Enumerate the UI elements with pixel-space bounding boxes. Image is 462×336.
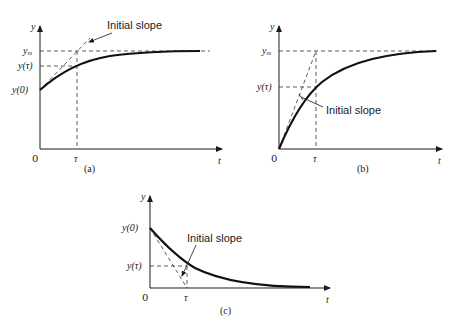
tau-label: τ: [74, 153, 78, 164]
caption-c: (c): [220, 305, 231, 317]
y-ss-label: yss: [22, 45, 33, 56]
panel-b: y t 0 yss y(τ) τ Initial slope (b): [256, 21, 442, 175]
x-axis-label: t: [438, 155, 441, 166]
response-curve: [40, 51, 200, 90]
tau-label: τ: [313, 153, 317, 164]
panel-a: y t 0 yss y(τ) y(0) τ Initial slope (a): [11, 19, 222, 175]
initial-slope-annotation: Initial slope: [107, 19, 162, 31]
tau-label: τ: [184, 292, 188, 303]
y-axis-label: y: [30, 21, 36, 32]
caption-b: (b): [357, 163, 369, 175]
panel-c: y t 0 y(0) y(τ) τ Initial slope (c): [121, 191, 330, 317]
y-tau-label: y(τ): [17, 60, 33, 72]
y-axis-label: y: [269, 21, 275, 32]
y-tau-label: y(τ): [126, 260, 142, 272]
y0-label: y(0): [121, 222, 139, 234]
initial-slope-annotation: Initial slope: [326, 104, 381, 116]
origin-label: 0: [271, 153, 277, 164]
first-order-response-figure: y t 0 yss y(τ) y(0) τ Initial slope (a) …: [0, 0, 462, 336]
origin-label: 0: [32, 153, 38, 164]
y0-label: y(0): [11, 84, 29, 96]
annotation-arrow: [89, 33, 112, 42]
origin-label: 0: [142, 292, 148, 303]
x-axis-label: t: [218, 155, 221, 166]
y-axis-label: y: [140, 191, 146, 202]
x-axis-label: t: [326, 294, 329, 305]
annotation-tick: [299, 94, 303, 100]
y-tau-label: y(τ): [256, 81, 272, 93]
y-ss-label: yss: [261, 45, 272, 56]
caption-a: (a): [84, 163, 95, 175]
initial-slope-annotation: Initial slope: [187, 232, 242, 244]
